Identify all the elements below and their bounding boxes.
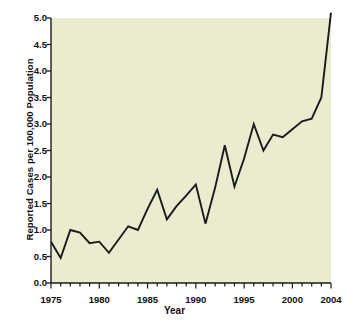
chart-plot-area [0,0,349,327]
chart-figure: Reported Cases per 100,000 Population Ye… [0,0,349,327]
